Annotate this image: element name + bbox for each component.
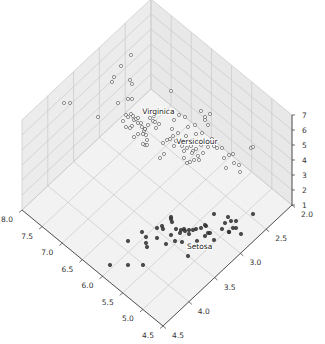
data-point-versicolour: [161, 141, 164, 144]
data-point-setosa: [173, 239, 176, 242]
y-tick-label: 2.5: [275, 234, 287, 243]
data-point-virginica: [116, 101, 119, 104]
x-tick-mark: [120, 293, 123, 296]
data-point-virginica: [126, 115, 129, 118]
x-tick-mark: [160, 326, 163, 329]
data-point-virginica: [112, 75, 115, 78]
data-point-setosa: [212, 238, 215, 241]
data-point-setosa: [186, 254, 189, 257]
data-point-versicolour: [186, 125, 189, 128]
x-tick-mark: [140, 309, 143, 312]
data-point-setosa: [226, 215, 229, 218]
data-point-versicolour: [176, 131, 179, 134]
data-point-virginica: [128, 126, 131, 129]
data-point-setosa: [161, 227, 164, 230]
data-point-setosa: [183, 229, 186, 232]
y-tick-label: 3.5: [224, 283, 236, 292]
data-point-virginica: [145, 143, 148, 146]
data-point-virginica: [145, 138, 148, 141]
data-point-setosa: [126, 263, 129, 266]
data-point-virginica: [132, 135, 135, 138]
x-tick-mark: [100, 276, 103, 279]
x-tick-label: 4.5: [142, 331, 154, 340]
data-point-versicolour: [162, 152, 165, 155]
data-point-setosa: [145, 245, 148, 248]
data-point-setosa: [203, 234, 206, 237]
x-tick-mark: [19, 210, 22, 213]
data-point-virginica: [124, 125, 127, 128]
data-point-setosa: [199, 226, 202, 229]
data-point-virginica: [131, 114, 134, 117]
data-point-versicolour: [193, 123, 196, 126]
data-point-setosa: [239, 232, 242, 235]
data-point-virginica: [130, 82, 133, 85]
data-point-setosa: [251, 212, 254, 215]
data-point-versicolour: [190, 151, 193, 154]
data-point-virginica: [130, 97, 133, 100]
y-tick-mark: [163, 326, 166, 329]
data-point-virginica: [140, 125, 143, 128]
data-point-versicolour: [215, 146, 218, 149]
data-point-virginica: [144, 133, 147, 136]
data-point-versicolour: [185, 146, 188, 149]
data-point-versicolour: [231, 152, 234, 155]
data-point-setosa: [169, 233, 172, 236]
data-point-setosa: [227, 230, 230, 233]
z-tick-label: 4: [302, 156, 307, 165]
data-point-setosa: [223, 221, 226, 224]
z-tick-label: 7: [302, 111, 307, 120]
data-point-versicolour: [220, 146, 223, 149]
y-tick-mark: [189, 302, 192, 305]
data-point-setosa: [169, 217, 172, 220]
x-tick-label: 6.0: [82, 281, 94, 290]
data-point-virginica: [208, 112, 211, 115]
data-point-setosa: [229, 219, 232, 222]
data-point-setosa: [180, 240, 183, 243]
data-point-setosa: [234, 226, 237, 229]
data-point-versicolour: [237, 163, 240, 166]
data-point-versicolour: [194, 147, 197, 150]
x-tick-label: 8.0: [1, 215, 13, 224]
data-point-versicolour: [172, 118, 175, 121]
data-point-setosa: [194, 227, 197, 230]
x-tick-label: 7.5: [21, 232, 33, 241]
x-tick-mark: [39, 227, 42, 230]
y-tick-label: 3.0: [249, 258, 261, 267]
data-point-versicolour: [222, 156, 225, 159]
data-point-virginica: [126, 97, 129, 100]
data-point-versicolour: [170, 127, 173, 130]
data-point-virginica: [146, 123, 149, 126]
data-point-setosa: [187, 232, 190, 235]
x-tick-mark: [59, 243, 62, 246]
data-point-setosa: [174, 227, 177, 230]
data-point-virginica: [203, 118, 206, 121]
data-point-setosa: [187, 228, 190, 231]
y-tick-mark: [240, 253, 243, 256]
data-point-virginica: [121, 119, 124, 122]
data-point-setosa: [155, 226, 158, 229]
data-point-versicolour: [182, 149, 185, 152]
data-point-versicolour: [158, 156, 161, 159]
data-point-versicolour: [200, 131, 203, 134]
data-point-setosa: [212, 212, 215, 215]
data-point-versicolour: [201, 151, 204, 154]
z-tick-label: 2: [302, 186, 307, 195]
data-point-versicolour: [192, 158, 195, 161]
iris-3d-scatter-chart: 4.55.05.56.06.57.07.58.02.02.53.03.54.04…: [0, 0, 325, 344]
data-point-setosa: [164, 242, 167, 245]
data-point-virginica: [143, 127, 146, 130]
data-point-versicolour: [227, 153, 230, 156]
data-point-versicolour: [232, 161, 235, 164]
data-point-setosa: [144, 241, 147, 244]
data-point-versicolour: [168, 137, 171, 140]
data-point-versicolour: [206, 123, 209, 126]
data-point-versicolour: [172, 144, 175, 147]
data-point-versicolour: [182, 156, 185, 159]
data-point-virginica: [119, 64, 122, 67]
data-point-virginica: [153, 120, 156, 123]
data-point-versicolour: [197, 158, 200, 161]
data-point-versicolour: [177, 113, 180, 116]
data-point-virginica: [110, 80, 113, 83]
data-point-versicolour: [188, 160, 191, 163]
data-point-setosa: [144, 235, 147, 238]
